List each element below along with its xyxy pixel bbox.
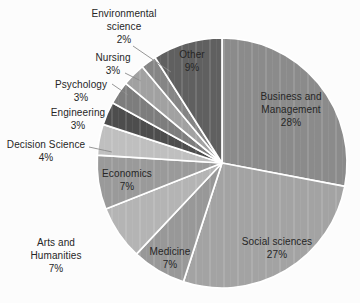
slice-name: Decision Science	[0, 138, 92, 151]
slice-percent: 7%	[18, 262, 94, 275]
label-arts-and-humanities: Arts and Humanities 7%	[18, 236, 94, 275]
slice-name: Business and Management	[256, 90, 326, 116]
slice-percent: 9%	[164, 61, 220, 74]
label-other: Other 9%	[164, 48, 220, 74]
slice-percent: 27%	[227, 248, 327, 261]
slice-name: Social sciences	[227, 235, 327, 248]
label-medicine: Medicine 7%	[136, 245, 204, 271]
slice-name: Arts and Humanities	[18, 236, 94, 262]
label-psychology: Psychology 3%	[39, 78, 123, 104]
label-environmental-science: Environmental science 2%	[84, 7, 164, 46]
slice-percent: 3%	[39, 91, 123, 104]
pie-chart-figure: Environmental science 2% Nursing 3% Psyc…	[0, 0, 360, 303]
label-social-sciences: Social sciences 27%	[227, 235, 327, 261]
slice-percent: 3%	[80, 64, 146, 77]
slice-percent: 28%	[256, 116, 326, 129]
slice-percent: 3%	[36, 119, 120, 132]
slice-name: Nursing	[80, 51, 146, 64]
slice-name: Economics	[85, 167, 169, 180]
slice-name: Psychology	[39, 78, 123, 91]
label-engineering: Engineering 3%	[36, 106, 120, 132]
slice-name: Other	[164, 48, 220, 61]
slice-percent: 7%	[85, 180, 169, 193]
slice-percent: 4%	[0, 151, 92, 164]
slice-name: Engineering	[36, 106, 120, 119]
label-economics: Economics 7%	[85, 167, 169, 193]
slice-name: Medicine	[136, 245, 204, 258]
label-business-and-management: Business and Management 28%	[256, 90, 326, 129]
slice-name: Environmental science	[84, 7, 164, 33]
slice-percent: 2%	[84, 33, 164, 46]
label-decision-science: Decision Science 4%	[0, 138, 92, 164]
slice-percent: 7%	[136, 258, 204, 271]
label-nursing: Nursing 3%	[80, 51, 146, 77]
